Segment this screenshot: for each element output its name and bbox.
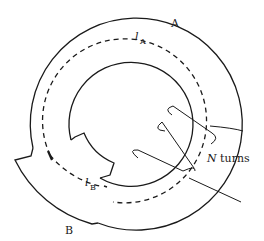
path-marker-1 xyxy=(48,151,52,160)
core-b-inner-edge xyxy=(71,133,114,178)
label-path-a: l A xyxy=(135,30,146,46)
svg-text:l: l xyxy=(85,176,89,189)
core-a-outer-edge xyxy=(30,18,242,230)
mean-path-b xyxy=(50,155,100,186)
label-path-b: l B xyxy=(85,176,96,192)
path-marker-2 xyxy=(104,186,107,187)
label-n-turns: N turns xyxy=(206,152,250,165)
mean-path-a xyxy=(43,39,207,203)
core-a-inner-edge xyxy=(69,62,193,186)
label-region-a: A xyxy=(170,17,180,30)
svg-text:B: B xyxy=(90,183,96,192)
label-region-b: B xyxy=(65,224,73,237)
svg-text:A: A xyxy=(139,37,146,46)
svg-text:l: l xyxy=(135,30,139,43)
magnetic-core-diagram: A B l A l B N turns xyxy=(0,0,264,241)
